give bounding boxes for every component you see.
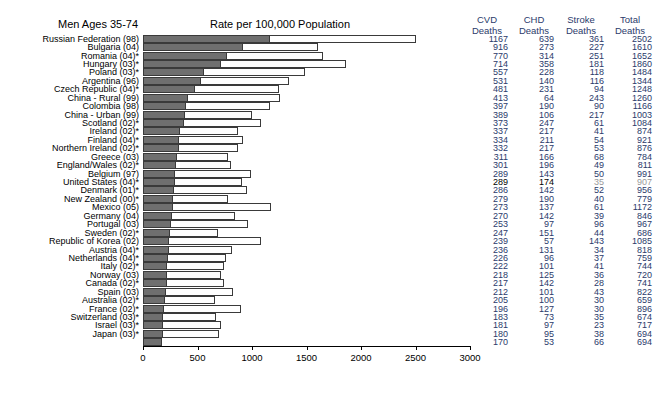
bar-cvd-deaths — [143, 43, 243, 51]
bar-cvd-deaths — [143, 288, 166, 296]
column-header-cvd-line1: CVD — [466, 14, 508, 25]
bar-cvd-deaths — [143, 305, 164, 313]
x-tick — [307, 346, 308, 350]
bar-cvd-deaths — [143, 127, 180, 135]
bar-cvd-deaths — [143, 321, 163, 329]
bar-cvd-deaths — [143, 237, 169, 245]
bar-cvd-deaths — [143, 203, 173, 211]
bar-cvd-deaths — [143, 136, 179, 144]
bar-cvd-deaths — [143, 60, 221, 68]
bar-cvd-deaths — [143, 170, 175, 178]
bar-cvd-deaths — [143, 94, 188, 102]
column-header-cvd: CVD Deaths — [466, 14, 508, 36]
bar-cvd-deaths — [143, 119, 184, 127]
bar-cvd-deaths — [143, 246, 169, 254]
bar-cvd-deaths — [143, 153, 177, 161]
bar-cvd-deaths — [143, 68, 204, 76]
x-tick-label: 1000 — [241, 352, 262, 363]
category-label: Japan (03)* — [0, 329, 139, 339]
x-tick-label: 2500 — [405, 352, 426, 363]
x-tick-label: 3000 — [459, 352, 480, 363]
bar-cvd-deaths — [143, 296, 165, 304]
bar-cvd-deaths — [143, 271, 167, 279]
x-tick-label: 0 — [140, 352, 145, 363]
bar-cvd-deaths — [143, 186, 174, 194]
bar-cvd-deaths — [143, 313, 163, 321]
bar-cvd-deaths — [143, 262, 167, 270]
chart-subtitle: Men Ages 35-74 — [58, 18, 138, 30]
bar-cvd-deaths — [143, 178, 175, 186]
column-header-stroke: Stroke Deaths — [558, 14, 604, 36]
bar-cvd-deaths — [143, 195, 173, 203]
bar-cvd-deaths — [143, 330, 163, 338]
bar-cvd-deaths — [143, 279, 167, 287]
column-header-stroke-line1: Stroke — [558, 14, 604, 25]
x-tick-label: 500 — [190, 352, 206, 363]
column-header-total: Total Deaths — [608, 14, 652, 36]
x-tick — [252, 346, 253, 350]
x-tick-label: 1500 — [296, 352, 317, 363]
bar-cvd-deaths — [143, 77, 201, 85]
bar-cvd-deaths — [143, 212, 172, 220]
bar-cvd-deaths — [143, 102, 186, 110]
chart-title: Rate per 100,000 Population — [210, 18, 350, 30]
plot-area: 050010001500200025003000 — [143, 34, 470, 346]
value-total-deaths: 694 — [592, 337, 652, 347]
bar-cvd-deaths — [143, 254, 168, 262]
x-tick — [198, 346, 199, 350]
x-tick — [416, 346, 417, 350]
x-tick-label: 2000 — [350, 352, 371, 363]
x-tick — [361, 346, 362, 350]
bar-cvd-deaths — [143, 229, 170, 237]
bar-cvd-deaths — [143, 52, 227, 60]
chart-figure: Men Ages 35-74 Rate per 100,000 Populati… — [0, 0, 659, 401]
column-header-total-line1: Total — [608, 14, 652, 25]
bar-cvd-deaths — [143, 161, 176, 169]
x-tick — [143, 346, 144, 350]
column-header-chd-line1: CHD — [513, 14, 555, 25]
bar-cvd-deaths — [143, 220, 171, 228]
bar-cvd-deaths — [143, 144, 179, 152]
bar-cvd-deaths — [143, 111, 185, 119]
bar-cvd-deaths — [143, 85, 195, 93]
bar-cvd-deaths — [143, 35, 270, 43]
column-header-chd: CHD Deaths — [513, 14, 555, 36]
